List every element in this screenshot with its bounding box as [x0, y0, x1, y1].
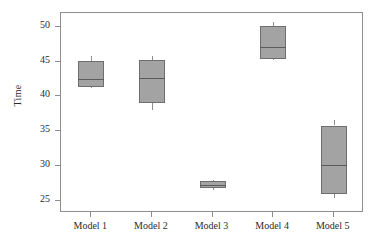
y-axis-title: Time: [12, 89, 23, 107]
median-line: [260, 47, 286, 48]
y-tick-label: 30: [40, 158, 50, 169]
whisker-lower: [273, 59, 274, 60]
box-iqr: [78, 61, 104, 87]
median-line: [78, 79, 104, 80]
x-tick-mark: [272, 212, 273, 217]
x-tick-mark: [90, 212, 91, 217]
y-tick-label: 35: [40, 123, 50, 134]
y-tick-label: 45: [40, 54, 50, 65]
y-tick-label: 40: [40, 88, 50, 99]
whisker-lower: [334, 194, 335, 198]
plot-area: [60, 12, 363, 212]
boxplot-chart: Time 253035404550 Model 1Model 2Model 3M…: [0, 0, 378, 244]
median-line: [321, 165, 347, 166]
x-tick-mark: [333, 212, 334, 217]
box-iqr: [139, 60, 165, 102]
box-iqr: [321, 126, 347, 195]
y-tick-label: 25: [40, 193, 50, 204]
whisker-lower: [213, 188, 214, 190]
whisker-lower: [152, 103, 153, 111]
median-line: [200, 185, 226, 186]
whisker-lower: [91, 87, 92, 88]
median-line: [139, 78, 165, 79]
x-tick-mark: [151, 212, 152, 217]
box-iqr: [260, 26, 286, 59]
y-tick-label: 50: [40, 19, 50, 30]
x-tick-mark: [212, 212, 213, 217]
x-tick-label: Model 5: [293, 220, 373, 231]
